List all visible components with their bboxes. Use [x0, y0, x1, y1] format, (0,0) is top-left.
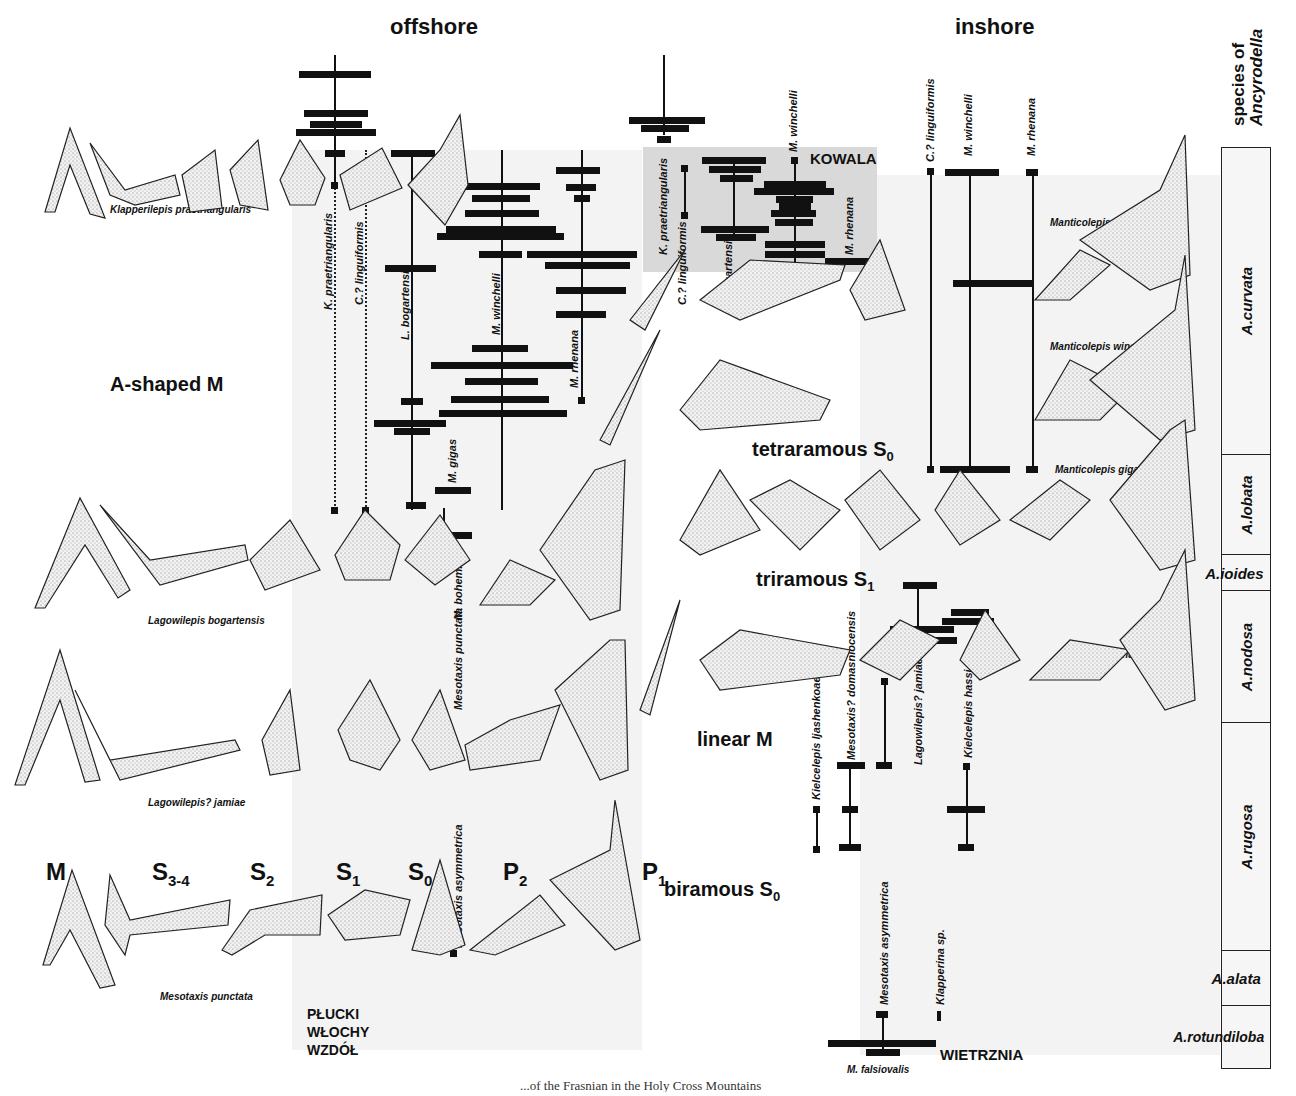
zone-label: A.alata	[1212, 970, 1261, 987]
range-bar	[439, 410, 567, 417]
range-line-c-linguiformis	[365, 150, 367, 510]
range-end-marker	[362, 507, 369, 514]
caption-m-falsiovalis: M. falsiovalis	[847, 1064, 909, 1075]
tetraramous-s0-label: tetraramous S0	[752, 438, 894, 464]
range-end-marker	[331, 182, 338, 189]
range-bar	[958, 844, 974, 851]
range-bar	[296, 129, 376, 136]
range-bar	[779, 203, 811, 210]
zone-label: A.lobata	[1238, 475, 1255, 534]
range-bar	[701, 226, 769, 233]
zone-label: A.curvata	[1238, 267, 1255, 335]
range-bar	[431, 362, 573, 369]
a-shaped-m-label: A-shaped M	[110, 373, 223, 396]
element-label-s0: S0	[408, 858, 432, 889]
zone-label: A.nodosa	[1238, 622, 1255, 690]
range-label-mesotaxis-domasniocensis: Mesotaxis? domasniocensis	[845, 611, 857, 760]
fossil-s-element	[230, 140, 268, 210]
element-main: S	[408, 858, 424, 885]
range-bar	[942, 618, 994, 625]
range-label-kowala-k-praetriangularis: K. praetriangularis	[657, 158, 669, 255]
range-bar	[556, 311, 606, 318]
range-label-kielcelepis-hassi: Kielcelepis hassi	[962, 669, 974, 758]
element-label-s1: S1	[336, 858, 360, 889]
range-bar	[837, 762, 865, 769]
range-end-marker	[681, 212, 688, 219]
range-label-wietrznia-klapperina: Klapperina sp.	[934, 929, 946, 1005]
element-main: S	[336, 858, 352, 885]
range-label-m-winchelli: M. winchelli	[490, 273, 502, 335]
range-bar	[325, 150, 345, 157]
range-end-marker	[450, 950, 457, 957]
range-end-marker	[791, 157, 798, 164]
range-bar	[754, 188, 834, 195]
element-label-s3-4: S3-4	[152, 858, 190, 889]
range-bar	[432, 532, 472, 539]
triramous-s1-text: triramous S	[756, 568, 867, 590]
range-bar	[472, 195, 530, 202]
range-label-mesotaxis-asymmetrica: Mesotaxis asymmetrica	[452, 824, 464, 948]
range-bar	[903, 582, 937, 589]
range-bar	[953, 280, 1033, 287]
fossil-s-element	[750, 480, 840, 550]
zone-curvata: A.curvata	[1222, 148, 1270, 455]
range-bar	[937, 1011, 941, 1021]
range-bar	[437, 233, 564, 240]
range-bar	[299, 71, 371, 78]
range-line-l-bogartensis	[411, 150, 413, 510]
range-bar	[527, 251, 637, 258]
range-bar	[765, 251, 825, 258]
zone-column-title-line2: Ancyrodella	[1248, 29, 1266, 126]
caption-manticolepis-rhenana: Manticolepis rhenana	[1050, 217, 1152, 228]
element-label-p1: P1	[642, 858, 666, 889]
range-label-inshore-m-winchelli: M. winchelli	[962, 94, 974, 156]
range-label-m-gigas: M. gigas	[446, 439, 458, 483]
range-bar	[401, 398, 423, 405]
range-bar	[472, 345, 528, 352]
fossil-m-element	[680, 470, 760, 555]
fossil-m-element	[640, 600, 680, 715]
range-bar	[629, 117, 705, 124]
range-bar	[465, 210, 539, 217]
range-label-kowala-m-winchelli: M. winchelli	[787, 90, 799, 152]
range-label-m-rhenana: M. rhenana	[568, 330, 580, 388]
element-sub: 1	[658, 872, 666, 889]
range-bar	[391, 150, 435, 157]
range-end-marker	[681, 165, 688, 172]
range-bar	[374, 420, 446, 427]
range-end-marker	[813, 806, 820, 813]
element-sub: 2	[519, 872, 527, 889]
range-bar	[566, 184, 596, 191]
biramous-s0-text: biramous S	[664, 878, 773, 900]
locality-wzdol: WZDÓŁ	[307, 1041, 369, 1059]
element-sub: 0	[424, 872, 432, 889]
zone-label: A.rugosa	[1238, 804, 1255, 869]
locality-wietrznia: WIETRZNIA	[940, 1046, 1023, 1064]
element-main: P	[642, 858, 658, 885]
zone-alata: A.alata	[1222, 951, 1270, 1006]
triramous-s1-label: triramous S1	[756, 568, 874, 594]
range-bar	[842, 806, 858, 813]
range-label-wietrznia-mesotaxis-asymmetrica: Mesotaxis asymmetrica	[878, 881, 890, 1005]
range-bar	[406, 502, 426, 509]
ancyrodella-zone-column: A.curvata A.lobata A.ioides A.nodosa A.r…	[1221, 147, 1271, 1069]
element-main: S	[250, 858, 266, 885]
range-label-inshore-m-rhenana: M. rhenana	[1025, 98, 1037, 156]
range-bar	[451, 396, 549, 403]
range-label-mesotaxis-punctata: Mesotaxis punctata	[452, 608, 464, 710]
range-bar	[776, 196, 813, 203]
range-bar	[876, 762, 892, 769]
range-bar	[825, 258, 870, 265]
biramous-s0-sub: 0	[773, 889, 780, 904]
range-bar	[446, 226, 556, 233]
range-bar	[556, 167, 600, 174]
element-sub: 1	[352, 872, 360, 889]
range-bar	[828, 1040, 936, 1047]
range-label-kielcelepis-ljashenkoae: Kielcelepis ljashenkoae	[810, 676, 822, 800]
offshore-range-shading	[292, 150, 642, 1050]
range-line-inshore-m-winchelli	[969, 170, 971, 470]
tetraramous-s0-text: tetraramous S	[752, 438, 887, 460]
inshore-range-shading	[860, 175, 1220, 1055]
range-bar	[435, 487, 471, 494]
range-bar	[720, 175, 753, 182]
